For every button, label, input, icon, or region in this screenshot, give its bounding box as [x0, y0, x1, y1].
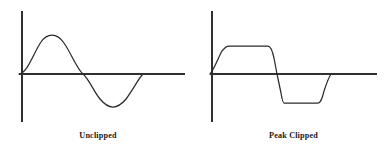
- unclipped-waveform: [19, 35, 143, 107]
- caption-peak-clipped: Peak Clipped: [196, 131, 391, 140]
- caption-unclipped: Unclipped: [0, 131, 196, 140]
- panel-peak-clipped: Peak Clipped: [196, 0, 391, 157]
- unclipped-plot: [0, 0, 196, 130]
- peak-clipped-plot: [196, 0, 391, 130]
- waveform-comparison-figure: Unclipped Peak Clipped: [0, 0, 391, 157]
- panel-unclipped: Unclipped: [0, 0, 196, 157]
